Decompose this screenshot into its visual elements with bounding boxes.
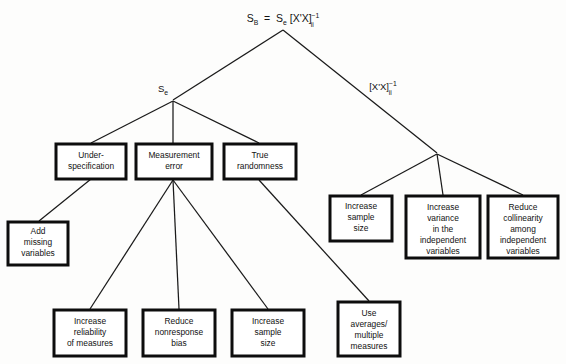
node-under-specification[interactable]: Under- specification: [56, 144, 126, 179]
svg-text:[X'X]−1ii: [X'X]−1ii: [369, 80, 397, 97]
edge-se-to-under: [91, 101, 173, 143]
node-label-line: sample: [255, 327, 282, 337]
edge-measurement-to-nonresponse: [173, 180, 179, 309]
node-label-line: specification: [68, 161, 114, 171]
node-label-line: error: [165, 161, 183, 171]
node-label-line: Reduce: [165, 316, 194, 326]
node-label-line: randomness: [237, 161, 283, 171]
edge-measurement-to-reliability: [90, 180, 173, 309]
edge-measurement-to-sample: [173, 180, 268, 309]
node-label-line: Increase: [74, 316, 106, 326]
node-add-missing-variables[interactable]: Add missing variables: [8, 222, 68, 265]
root-formula-exponent: −1: [312, 12, 320, 19]
branch-label-xx-exponent: −1: [389, 80, 397, 87]
edge-xx-to-variance: [437, 154, 443, 195]
node-label-line: collinearity: [503, 213, 543, 223]
node-reduce-nonresponse-bias[interactable]: Reduce nonresponse bias: [143, 310, 215, 356]
node-label-line: variables: [21, 248, 55, 258]
node-true-randomness[interactable]: True randomness: [224, 144, 296, 179]
node-label-line: in the: [433, 224, 454, 234]
node-label-line: missing: [24, 237, 53, 247]
node-label-line: Under-: [78, 150, 104, 160]
root-formula-s-left: S: [247, 12, 254, 24]
branch-label-xx-bracket: [X'X]: [369, 81, 389, 92]
node-increase-sample-size-right[interactable]: Increase sample size: [330, 196, 392, 241]
node-measurement-error[interactable]: Measurement error: [136, 144, 212, 179]
node-label-line: Reduce: [509, 202, 538, 212]
node-label-line: Add: [31, 226, 46, 236]
node-label-line: measures: [351, 341, 388, 351]
node-label-line: multiple: [355, 330, 384, 340]
edge-root-to-se: [173, 30, 283, 100]
branch-label-xx: [X'X]−1ii: [369, 80, 397, 97]
node-label-line: size: [354, 223, 369, 233]
branch-label-se: Se: [158, 83, 168, 96]
node-label-line: reliability: [74, 327, 107, 337]
node-label-line: sample: [348, 212, 375, 222]
node-increase-variance-independent[interactable]: Increase variance in the independent var…: [406, 196, 480, 258]
node-reduce-collinearity[interactable]: Reduce collinearity among independent va…: [488, 196, 558, 258]
node-label-line: nonresponse: [155, 327, 204, 337]
branch-label-xx-subscript: ii: [389, 89, 393, 96]
svg-text:Se: Se: [158, 83, 168, 96]
node-increase-reliability[interactable]: Increase reliability of measures: [54, 310, 126, 356]
root-formula-s-right: S: [276, 12, 283, 24]
node-label-line: Measurement: [148, 150, 200, 160]
root-formula-subscript-ii: ii: [311, 21, 315, 28]
root-formula-bracket: [X'X]: [290, 12, 312, 24]
node-label-line: Use: [362, 308, 377, 318]
node-label-line: among: [510, 224, 536, 234]
node-label-line: variance: [427, 213, 459, 223]
tree-diagram-svg: SB = Se [X'X]−1ii Se [X'X]−1ii: [0, 0, 566, 364]
root-formula: SB = Se [X'X]−1ii: [247, 12, 320, 29]
node-label-line: variables: [506, 246, 540, 256]
node-label-line: variables: [426, 246, 460, 256]
node-label-line: size: [261, 338, 276, 348]
node-label-line: Increase: [427, 202, 459, 212]
node-label-line: independent: [500, 235, 547, 245]
svg-text:SB = Se [X'X]−1ii: SB = Se [X'X]−1ii: [247, 12, 320, 29]
node-label-line: True: [252, 150, 269, 160]
edge-root-to-xx: [283, 30, 437, 153]
edge-xx-to-collinearity: [437, 154, 523, 195]
diagram-canvas: SB = Se [X'X]−1ii Se [X'X]−1ii: [0, 0, 566, 364]
node-increase-sample-size-bottom[interactable]: Increase sample size: [232, 310, 304, 356]
edge-se-to-true: [173, 101, 259, 143]
node-label-line: bias: [171, 338, 186, 348]
node-label-line: averages/: [351, 319, 388, 329]
edge-under-to-add-missing: [39, 179, 91, 221]
branch-label-se-subscript: e: [164, 89, 168, 96]
node-label-line: independent: [420, 235, 467, 245]
node-label-line: of measures: [67, 338, 113, 348]
node-use-averages-multiple-measures[interactable]: Use averages/ multiple measures: [338, 302, 400, 356]
node-label-line: Increase: [252, 316, 284, 326]
node-label-line: Increase: [345, 201, 377, 211]
edge-xx-to-sample: [361, 154, 437, 195]
